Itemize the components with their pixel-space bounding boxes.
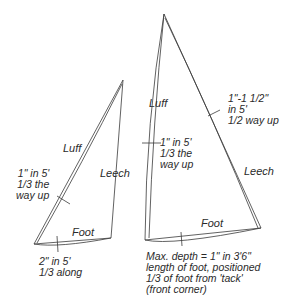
small-sail-leech-label: Leech <box>100 168 130 179</box>
small-sail-foot-annotation: 2" in 5' 1/3 along <box>39 256 82 278</box>
large-sail-foot-label: Foot <box>201 218 223 229</box>
large-sail-luff-inner <box>149 14 164 238</box>
annotation-line: 1/2 way up <box>228 115 279 126</box>
small-sail-leech <box>111 80 123 238</box>
large-sail-foot-marker <box>181 232 182 246</box>
small-sail-foot-straight <box>34 238 111 244</box>
large-sail-leech-label: Leech <box>244 166 274 177</box>
annotation-line: way up <box>160 159 193 170</box>
large-sail <box>142 14 261 246</box>
small-sail-foot-label: Foot <box>72 227 94 238</box>
large-sail-leech-marker <box>208 110 220 116</box>
small-sail-foot-marker <box>57 236 58 252</box>
large-sail-leech-annotation: 1"-1 1/2" in 5' 1/2 way up <box>228 93 279 126</box>
large-sail-luff-label: Luff <box>149 98 167 109</box>
large-sail-foot-annotation: Max. depth = 1" in 3'6" length of foot, … <box>146 251 260 295</box>
small-sail-luff-inner <box>37 84 122 243</box>
annotation-line: 1/3 along <box>39 267 82 278</box>
small-sail-luff-outer <box>34 80 123 244</box>
annotation-line: way up <box>16 190 49 201</box>
large-sail-luff-annotation: 1" in 5' 1/3 the way up <box>160 137 193 170</box>
small-sail-luff-annotation: 1" in 5' 1/3 the way up <box>16 168 49 201</box>
small-sail-luff-label: Luff <box>63 143 81 154</box>
small-sail-luff-marker <box>57 196 70 204</box>
annotation-line: (front corner) <box>146 284 260 295</box>
